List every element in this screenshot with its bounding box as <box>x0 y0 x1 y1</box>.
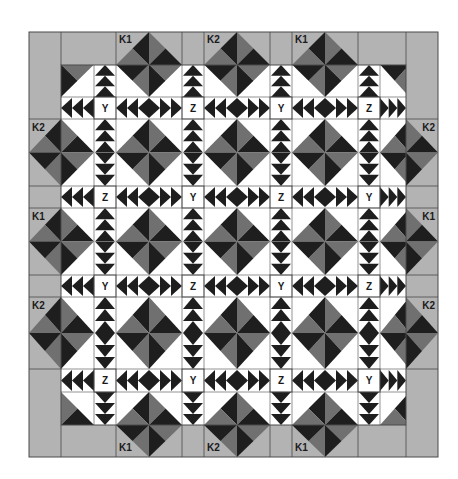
flying-geese-vertical <box>182 119 204 153</box>
cornerstone-label: Y <box>190 375 197 386</box>
flying-geese-horizontal <box>380 369 406 392</box>
flying-geese-horizontal <box>380 186 406 208</box>
flying-geese-vertical <box>270 153 292 187</box>
flying-geese-horizontal <box>61 369 94 392</box>
flying-geese-horizontal <box>237 97 270 119</box>
flying-geese-horizontal <box>204 97 237 119</box>
flying-geese-vertical <box>270 208 292 242</box>
flying-geese-horizontal <box>149 369 182 392</box>
flying-geese-vertical <box>182 153 204 187</box>
border-label-left: K2 <box>32 122 45 133</box>
flying-geese-horizontal <box>61 275 94 297</box>
flying-geese-horizontal <box>292 186 325 208</box>
quilt-diagram: YZYZZYZYYZYZZYZYK1K1K2K2K1K1K2K2K1K1K2K2 <box>0 0 458 479</box>
flying-geese-vertical <box>182 297 204 333</box>
flying-geese-horizontal <box>149 186 182 208</box>
cornerstone-label: Y <box>366 375 373 386</box>
border-label-right: K1 <box>422 211 435 222</box>
flying-geese-vertical <box>270 242 292 276</box>
flying-geese-horizontal <box>325 186 358 208</box>
flying-geese-horizontal <box>325 275 358 297</box>
flying-geese-vertical <box>182 392 204 425</box>
flying-geese-vertical <box>358 297 380 333</box>
flying-geese-vertical <box>358 208 380 242</box>
flying-geese-vertical <box>94 392 116 425</box>
flying-geese-vertical <box>358 119 380 153</box>
flying-geese-vertical <box>358 242 380 276</box>
border-label-left: K1 <box>32 211 45 222</box>
cornerstone-label: Y <box>102 103 109 114</box>
flying-geese-horizontal <box>292 369 325 392</box>
flying-geese-horizontal <box>116 369 149 392</box>
border-label-bottom: K1 <box>119 442 132 453</box>
cornerstone-label: Z <box>102 192 108 203</box>
flying-geese-horizontal <box>237 186 270 208</box>
flying-geese-horizontal <box>325 97 358 119</box>
flying-geese-horizontal <box>237 369 270 392</box>
border-label-top: K1 <box>119 34 132 45</box>
border-label-top: K1 <box>295 34 308 45</box>
flying-geese-vertical <box>358 392 380 425</box>
flying-geese-vertical <box>270 119 292 153</box>
flying-geese-horizontal <box>116 275 149 297</box>
cornerstone-label: Z <box>366 103 372 114</box>
cornerstone-label: Z <box>278 375 284 386</box>
cornerstone-label: Y <box>102 281 109 292</box>
flying-geese-horizontal <box>237 275 270 297</box>
cornerstone-label: Y <box>366 192 373 203</box>
border-label-right: K2 <box>422 122 435 133</box>
flying-geese-horizontal <box>116 186 149 208</box>
cornerstone-label: Z <box>278 192 284 203</box>
flying-geese-vertical <box>270 65 292 97</box>
cornerstone-label: Z <box>190 281 196 292</box>
flying-geese-horizontal <box>204 369 237 392</box>
flying-geese-horizontal <box>292 97 325 119</box>
flying-geese-horizontal <box>204 186 237 208</box>
flying-geese-vertical <box>270 297 292 333</box>
flying-geese-vertical <box>94 208 116 242</box>
cornerstone-label: Z <box>366 281 372 292</box>
flying-geese-vertical <box>182 242 204 276</box>
border-label-left: K2 <box>32 300 45 311</box>
flying-geese-vertical <box>182 333 204 369</box>
flying-geese-horizontal <box>325 369 358 392</box>
border-label-top: K2 <box>207 34 220 45</box>
flying-geese-vertical <box>358 153 380 187</box>
cornerstone-label: Y <box>278 281 285 292</box>
border-label-bottom: K2 <box>207 442 220 453</box>
flying-geese-horizontal <box>380 97 406 119</box>
border-label-bottom: K1 <box>295 442 308 453</box>
flying-geese-vertical <box>94 153 116 187</box>
flying-geese-vertical <box>358 65 380 97</box>
flying-geese-vertical <box>358 333 380 369</box>
flying-geese-horizontal <box>149 97 182 119</box>
flying-geese-vertical <box>182 65 204 97</box>
cornerstone-label: Z <box>190 103 196 114</box>
flying-geese-vertical <box>270 392 292 425</box>
border-label-right: K2 <box>422 300 435 311</box>
flying-geese-horizontal <box>116 97 149 119</box>
cornerstone-label: Y <box>190 192 197 203</box>
flying-geese-vertical <box>94 65 116 97</box>
flying-geese-horizontal <box>380 275 406 297</box>
flying-geese-horizontal <box>61 97 94 119</box>
flying-geese-vertical <box>94 242 116 276</box>
flying-geese-horizontal <box>61 186 94 208</box>
flying-geese-horizontal <box>292 275 325 297</box>
flying-geese-vertical <box>94 297 116 333</box>
cornerstone-label: Z <box>102 375 108 386</box>
flying-geese-vertical <box>182 208 204 242</box>
flying-geese-vertical <box>94 119 116 153</box>
flying-geese-vertical <box>270 333 292 369</box>
flying-geese-vertical <box>94 333 116 369</box>
flying-geese-horizontal <box>204 275 237 297</box>
flying-geese-horizontal <box>149 275 182 297</box>
cornerstone-label: Y <box>278 103 285 114</box>
